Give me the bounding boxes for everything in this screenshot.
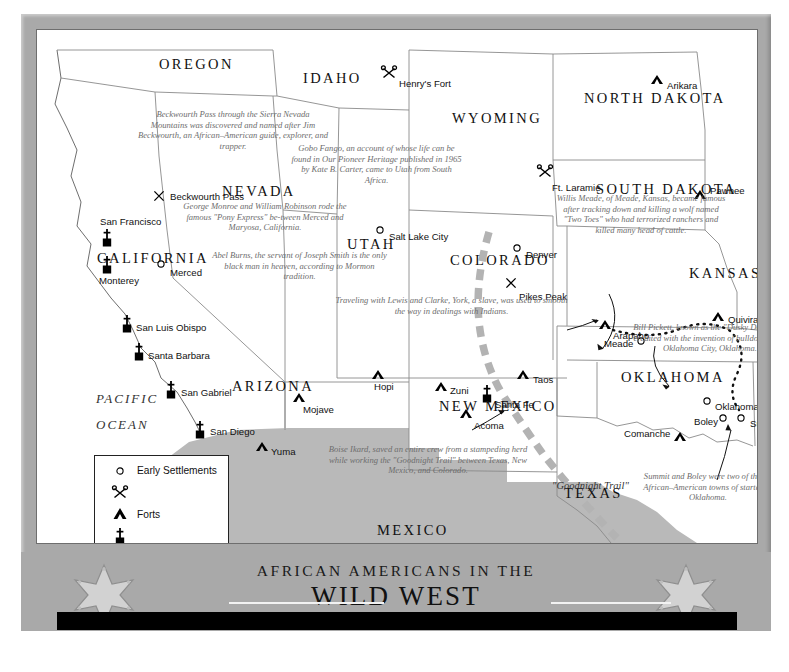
place-label-taos: Taos <box>533 374 553 385</box>
state-label-idaho: IDAHO <box>303 70 362 87</box>
crossed-swords-icon-ft-laramie <box>538 165 553 177</box>
annotation-summit-boley: Summit and Boley were two of the all Afr… <box>629 471 758 503</box>
cross-on-block-icon <box>109 527 131 544</box>
place-label-meade: Meade <box>604 338 633 349</box>
place-label-santa-barbara: Santa Barbara <box>148 350 210 361</box>
place-label-acoma: Acoma <box>474 420 504 431</box>
place-label-denver: Denver <box>526 249 557 260</box>
place-label-san-luis-obispo: San Luis Obispo <box>136 322 206 333</box>
place-label-boley: Boley <box>694 416 718 427</box>
place-label-yuma: Yuma <box>271 446 296 457</box>
place-label-zuni: Zuni <box>450 385 469 396</box>
triangle-icon-quivira <box>712 312 724 321</box>
triangle-icon-comanche <box>674 432 686 441</box>
circle-icon <box>109 461 131 479</box>
circle-icon-boley <box>720 415 726 421</box>
title-rule-left <box>229 602 384 604</box>
state-label-mexico: MEXICO <box>377 522 449 539</box>
place-label-ft-laramie: Ft. Laramie <box>552 182 601 193</box>
legend-label-early-settlements: Early Settlements <box>137 465 217 476</box>
poster-title-line-2: WILD WEST <box>21 581 771 612</box>
circle-icon-oklahoma-city <box>704 398 710 404</box>
place-label-salt-lake-city: Salt Lake City <box>389 231 448 242</box>
state-label-kansas: KANSAS <box>689 265 758 282</box>
triangle-icon <box>109 505 131 523</box>
annotation-york-lewis-clark: Traveling with Lewis and Clarke, York, a… <box>334 295 569 316</box>
map-legend[interactable]: Early Settlements Forts Indian Villages <box>94 455 229 544</box>
triangle-icon-arapaho <box>599 320 611 329</box>
place-label-comanche: Comanche <box>624 428 670 439</box>
cross-on-block-icon-san-francisco <box>103 229 111 247</box>
poster-title-line-1: AFRICAN AMERICANS IN THE <box>21 562 771 580</box>
crossed-swords-icon-henry-s-fort <box>382 66 397 78</box>
circle-icon-summit <box>738 415 744 421</box>
place-label-san-diego: San Diego <box>210 426 255 437</box>
bottom-black-bar <box>57 612 737 630</box>
place-label-san-francisco: San Francisco <box>100 216 161 227</box>
crossed-swords-icon <box>109 483 131 501</box>
place-label-arikara: Arikara <box>667 80 697 91</box>
place-label-hopi: Hopi <box>374 381 394 392</box>
state-label-oklahoma: OKLAHOMA <box>621 369 725 386</box>
title-rule-right <box>551 602 671 604</box>
state-label-california: CALIFORNIA <box>97 250 209 267</box>
place-label-monterey: Monterey <box>99 275 139 286</box>
place-label-santa-fe: Santa Fe <box>495 399 534 410</box>
circle-icon-denver <box>514 245 520 251</box>
annotation-abel-burns: Abel Burns, the servant of Joseph Smith … <box>212 250 387 282</box>
legend-label-forts: Forts <box>137 509 160 520</box>
place-label-summit: Summit <box>750 418 758 429</box>
place-label-mojave: Mojave <box>303 404 334 415</box>
state-label-oregon: OREGON <box>159 56 234 73</box>
state-label-north-dakota: NORTH DAKOTA <box>584 90 726 107</box>
annotation-boise-ikard: Boise Ikard, saved an entire crew from a… <box>325 444 531 476</box>
state-label-wyoming: WYOMING <box>452 110 542 127</box>
cross-on-block-icon-san-diego <box>196 421 204 439</box>
place-label-san-gabriel: San Gabriel <box>181 387 232 398</box>
circle-icon-salt-lake-city <box>377 227 383 233</box>
goodnight-trail-label: "Goodnight Trail" <box>552 480 629 491</box>
place-label-oklahoma-city: Oklahoma City <box>715 401 758 412</box>
annotation-willis-meade: Willis Meade, of Meade, Kansas, became f… <box>555 193 727 235</box>
place-label-merced: Merced <box>170 267 202 278</box>
ocean-label-pacific: PACIFIC <box>96 391 158 407</box>
ocean-label-ocean: OCEAN <box>96 417 149 433</box>
x-marker-icon-pikes-peak <box>506 278 515 287</box>
annotation-gobo-fango: Gobo Fango, an account of whose life can… <box>289 143 464 185</box>
state-label-arizona: ARIZONA <box>232 378 314 395</box>
poster-root: OREGONIDAHOWYOMINGNORTH DAKOTASOUTH DAKO… <box>0 0 789 672</box>
place-label-henry-s-fort: Henry's Fort <box>399 78 451 89</box>
cross-on-block-icon-santa-barbara <box>135 343 143 361</box>
x-marker-icon-beckwourth-pass <box>154 191 163 200</box>
triangle-icon-zuni <box>435 382 447 391</box>
annotation-pony-express: George Monroe and William Robinson rode … <box>174 201 356 233</box>
annotation-bill-pickett: Bill Pickett, known as the "Dusky Demon"… <box>631 322 758 354</box>
map-canvas[interactable]: OREGONIDAHOWYOMINGNORTH DAKOTASOUTH DAKO… <box>36 29 758 544</box>
triangle-icon-arikara <box>651 75 663 84</box>
